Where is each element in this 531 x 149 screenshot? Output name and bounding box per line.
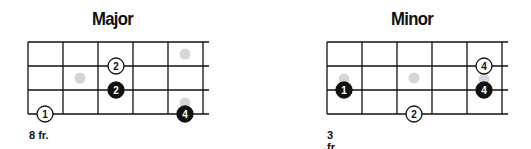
ghost-dot (75, 73, 86, 84)
finger-number: 4 (182, 109, 188, 120)
finger-number: 1 (341, 85, 347, 96)
fretboard-canvas: 22144142 (0, 0, 531, 149)
ghost-dot (409, 73, 420, 84)
finger-number: 2 (113, 61, 119, 72)
finger-number: 4 (481, 61, 487, 72)
finger-number: 2 (411, 109, 417, 120)
ghost-dot (180, 49, 191, 60)
finger-number: 2 (113, 85, 119, 96)
finger-number: 1 (42, 109, 48, 120)
finger-number: 4 (481, 85, 487, 96)
